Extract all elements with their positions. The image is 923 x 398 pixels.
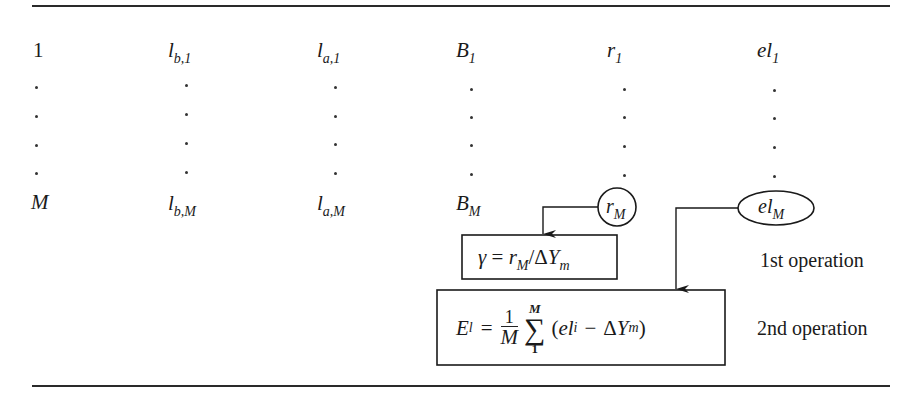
Y-base: Y: [617, 318, 629, 339]
Y-base: Y: [548, 245, 560, 269]
op1-label: 1st operation: [760, 250, 864, 270]
equals: =: [492, 245, 504, 269]
r-sub: M: [517, 258, 529, 273]
gamma: γ: [478, 245, 486, 269]
circle-node-label: rM: [606, 196, 625, 216]
node-el-sub: M: [772, 207, 784, 222]
paren-open: (: [551, 318, 558, 339]
fraction-denominator: M: [501, 327, 519, 348]
op2-label: 2nd operation: [757, 318, 868, 338]
r-base: r: [509, 245, 517, 269]
op1-formula: γ = rM/ΔYm: [478, 247, 570, 268]
Y-sub: m: [560, 258, 570, 273]
ellipse-node-label: elM: [758, 196, 784, 216]
arrow-r-to-op1: [543, 207, 598, 234]
delta: Δ: [603, 318, 617, 339]
arrow-el-to-op2: [676, 208, 738, 289]
op2-formula: El = 1M M∑1 (eli − ΔYm): [456, 300, 646, 356]
E-base: E: [456, 318, 469, 339]
el-base: el: [558, 318, 573, 339]
paren-close: ): [639, 318, 646, 339]
node-r-sub: M: [614, 207, 626, 222]
delta: Δ: [534, 245, 548, 269]
equals: =: [481, 318, 493, 339]
node-r-base: r: [606, 195, 614, 217]
summation: M∑1: [524, 302, 545, 355]
node-el-base: el: [758, 195, 772, 217]
minus: −: [585, 318, 597, 339]
sigma-icon: ∑: [524, 315, 545, 342]
fraction: 1M: [501, 308, 519, 348]
